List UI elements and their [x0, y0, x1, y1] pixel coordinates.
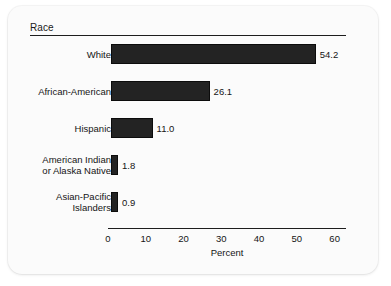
bar-row[interactable]: African-American26.1: [8, 81, 378, 101]
bar[interactable]: [111, 118, 153, 138]
bar-category-label: Hispanic: [15, 123, 111, 134]
x-axis-line: [108, 228, 346, 229]
bar[interactable]: [111, 192, 118, 212]
bar[interactable]: [111, 155, 118, 175]
x-tick-label: 60: [329, 233, 340, 244]
bar-category-label: Asian-Pacific Islanders: [15, 191, 111, 213]
bar-value-label: 54.2: [320, 49, 339, 60]
x-axis-label: Percent: [108, 247, 346, 258]
bar[interactable]: [111, 81, 210, 101]
bar-value-label: 1.8: [122, 160, 135, 171]
bar-category-label: African-American: [15, 86, 111, 97]
chart-card: Race White54.2African-American26.1Hispan…: [8, 6, 378, 274]
bar-track: 26.1: [111, 81, 232, 101]
x-axis-ticks: 0102030405060: [8, 233, 378, 247]
bar-category-label: American Indian or Alaska Native: [15, 154, 111, 176]
x-tick-label: 40: [254, 233, 265, 244]
x-tick-label: 30: [216, 233, 227, 244]
bar-value-label: 26.1: [214, 86, 233, 97]
page-title: Race: [30, 22, 346, 35]
bar-row[interactable]: White54.2: [8, 44, 378, 64]
bar-track: 1.8: [111, 155, 135, 175]
x-tick-label: 0: [105, 233, 110, 244]
bar-value-label: 0.9: [122, 197, 135, 208]
x-tick-label: 20: [178, 233, 189, 244]
x-tick-label: 10: [140, 233, 151, 244]
plot-area: White54.2African-American26.1Hispanic11.…: [8, 40, 378, 230]
title-divider: [30, 35, 346, 36]
bar-row[interactable]: Asian-Pacific Islanders0.9: [8, 192, 378, 212]
x-tick-label: 50: [292, 233, 303, 244]
chart-header: Race: [30, 22, 346, 36]
bar-track: 0.9: [111, 192, 135, 212]
bar-row[interactable]: Hispanic11.0: [8, 118, 378, 138]
bar-track: 54.2: [111, 44, 338, 64]
bar-row[interactable]: American Indian or Alaska Native1.8: [8, 155, 378, 175]
bar-category-label: White: [15, 49, 111, 60]
bar-track: 11.0: [111, 118, 174, 138]
bar[interactable]: [111, 44, 316, 64]
bar-value-label: 11.0: [157, 123, 175, 134]
